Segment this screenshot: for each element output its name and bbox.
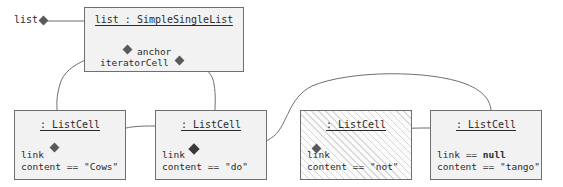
listcell-title-1: : ListCell bbox=[15, 119, 125, 130]
iteratorcell-slot-label: iteratorCell bbox=[100, 57, 169, 68]
slot-row-content-2: content == "do" bbox=[162, 161, 248, 173]
slot-row-link-2: link bbox=[162, 149, 248, 161]
link-op-4: == bbox=[466, 149, 477, 160]
content-op-1: == bbox=[67, 161, 78, 172]
content-label-2: content bbox=[162, 161, 202, 172]
content-label-4: content bbox=[437, 161, 477, 172]
anchor-slot-label: anchor bbox=[137, 46, 171, 57]
slot-row-content-4: content == "tango" bbox=[437, 161, 540, 173]
external-list-label: list bbox=[14, 14, 38, 25]
content-op-2: == bbox=[208, 161, 219, 172]
slot-row-link-4: link == null bbox=[437, 149, 540, 161]
link-label-2: link bbox=[162, 149, 185, 160]
object-box-listcell-tango[interactable]: : ListCell link == null content == "tang… bbox=[430, 110, 542, 180]
slot-row-content-3: content == "not" bbox=[307, 161, 399, 173]
content-value-2: "do" bbox=[225, 161, 248, 172]
link-label-1: link bbox=[21, 149, 44, 160]
object-diagram-canvas: list list : SimpleSingleList anchor iter… bbox=[0, 0, 563, 187]
listcell-slots-3: link content == "not" bbox=[307, 149, 399, 173]
slot-row-iteratorcell: iteratorCell bbox=[85, 57, 243, 68]
slot-row-link-3: link bbox=[307, 149, 399, 161]
listcell-title-4: : ListCell bbox=[431, 119, 541, 130]
link-label-4: link bbox=[437, 149, 460, 160]
listcell-slots-4: link == null content == "tango" bbox=[437, 149, 540, 173]
slot-row-content-1: content == "Cows" bbox=[21, 161, 118, 173]
content-op-3: == bbox=[353, 161, 364, 172]
slot-row-link-1: link bbox=[21, 149, 118, 161]
object-slots-list: anchor iteratorCell bbox=[85, 46, 243, 68]
object-box-listcell-do[interactable]: : ListCell link content == "do" bbox=[155, 110, 267, 180]
content-label-1: content bbox=[21, 161, 61, 172]
content-op-4: == bbox=[483, 161, 494, 172]
listcell-slots-2: link content == "do" bbox=[162, 149, 248, 173]
listcell-title-3: : ListCell bbox=[301, 119, 411, 130]
content-value-3: "not" bbox=[370, 161, 399, 172]
listcell-title-2: : ListCell bbox=[156, 119, 266, 130]
content-label-3: content bbox=[307, 161, 347, 172]
content-value-1: "Cows" bbox=[84, 161, 118, 172]
listcell-slots-1: link content == "Cows" bbox=[21, 149, 118, 173]
object-box-list[interactable]: list : SimpleSingleList anchor iteratorC… bbox=[84, 7, 244, 72]
object-box-listcell-cows[interactable]: : ListCell link content == "Cows" bbox=[14, 110, 126, 180]
slot-row-anchor: anchor bbox=[85, 46, 243, 57]
link-value-4: null bbox=[483, 149, 506, 160]
content-value-4: "tango" bbox=[500, 161, 540, 172]
object-title-list: list : SimpleSingleList bbox=[85, 14, 243, 25]
